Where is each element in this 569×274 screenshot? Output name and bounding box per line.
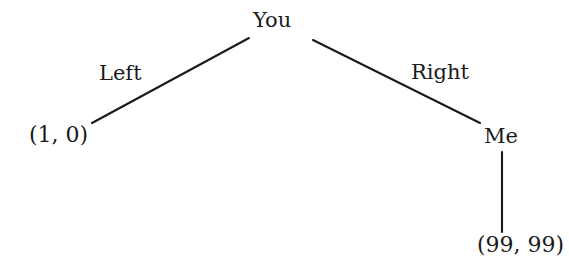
game-tree-figure: You Left Right (1, 0) Me (99, 99) xyxy=(0,0,569,274)
payoff-label-down-terminal: (99, 99) xyxy=(477,234,564,256)
payoff-label-left-terminal: (1, 0) xyxy=(29,124,88,146)
node-label-me: Me xyxy=(484,126,518,147)
node-label-you: You xyxy=(253,10,291,31)
action-label-left: Left xyxy=(99,63,142,84)
action-label-right: Right xyxy=(411,62,469,83)
